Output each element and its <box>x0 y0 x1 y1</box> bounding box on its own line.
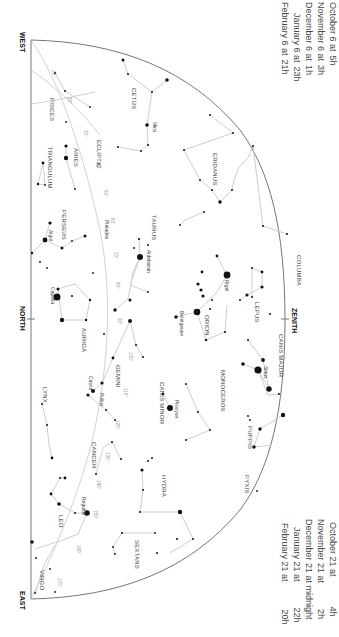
constellation-canis-major: CANIS MAJOR <box>278 334 284 378</box>
constellation-orion: ORION <box>204 315 210 336</box>
svg-text:February 6 at21h: February 6 at21h <box>280 2 290 75</box>
time-hour: 1h <box>304 65 314 75</box>
constellation-puppis: PUPPIS <box>247 426 253 449</box>
time-hour: 23h <box>292 67 302 82</box>
time-date: October 21 at <box>328 522 338 577</box>
degree-label: 120° <box>115 420 120 430</box>
constellation-pyxis: PYXIS <box>244 475 250 494</box>
constellation-sextans: SEXTANS <box>134 540 140 569</box>
time-date: December 21 at midnight <box>304 519 314 620</box>
time-date: November 21 at <box>316 519 326 584</box>
degree-label: 80° <box>115 282 120 289</box>
star-betelgeuse: Betelgeuse <box>179 311 185 336</box>
time-hour: 4h <box>328 607 338 617</box>
constellation-columba: COLUMBA <box>296 255 302 286</box>
star-castor: Castor <box>88 376 94 391</box>
viewing-times-late: October 21 at4h November 21 at2h Decembe… <box>280 519 338 625</box>
svg-text:December 21 at midnight: December 21 at midnight <box>304 519 314 620</box>
degree-label: 50° <box>103 190 108 197</box>
time-date: February 6 at <box>280 2 290 56</box>
zenith-label: ZENITH <box>291 308 298 333</box>
star-sirius: Sirius <box>263 366 269 379</box>
svg-text:November 21 at2h: November 21 at2h <box>316 519 326 619</box>
degree-label: 90° <box>117 318 122 325</box>
degree-label: 150° <box>93 510 98 520</box>
constellation-labels: PISCES CETUS ARIES TRIANGULUM PERSEUS ER… <box>39 88 302 590</box>
degree-label: 130° <box>105 452 110 462</box>
west-label: WEST <box>19 32 26 53</box>
time-hour: 2h <box>316 609 326 619</box>
constellation-lines <box>32 60 287 594</box>
constellation-taurus: TAURUS <box>151 215 157 240</box>
svg-text:February 21 at20h: February 21 at20h <box>280 523 290 625</box>
svg-text:January 6 at23h: January 6 at23h <box>292 13 302 82</box>
svg-text:December 6 at1h: December 6 at1h <box>304 2 314 75</box>
constellation-triangulum: TRIANGULUM <box>47 147 53 189</box>
constellation-cetus: CETUS <box>131 88 137 109</box>
time-hour: 20h <box>280 610 290 625</box>
time-date: October 6 at <box>328 2 338 52</box>
svg-text:November 6 at3h: November 6 at3h <box>316 2 326 75</box>
constellation-virgo: VIRGO <box>39 570 45 590</box>
star-algol: Algol <box>48 230 54 241</box>
svg-text:October 21 at4h: October 21 at4h <box>328 522 338 617</box>
viewing-times-early: October 6 at5h November 6 at3h December … <box>280 2 338 82</box>
star-rigel: Rigel <box>224 280 230 291</box>
constellation-cancer: CANCER <box>91 442 97 469</box>
time-hour: 5h <box>328 56 338 66</box>
svg-text:October 6 at5h: October 6 at5h <box>328 2 338 66</box>
constellation-leo: LEO <box>58 515 64 528</box>
constellation-lynx: LYNX <box>42 387 48 403</box>
degree-label: 30° <box>83 130 88 137</box>
time-date: November 6 at <box>316 2 326 62</box>
time-date: January 21 at <box>292 527 302 582</box>
degree-label: 110° <box>123 388 128 397</box>
north-label: NORTH <box>19 306 26 331</box>
star-aldebaran: Aldebaran <box>146 250 152 273</box>
constellation-eridanus: ERIDANUS <box>212 153 218 186</box>
star-chart: 10° 20° 30° 40° 50° 60° 70° 80° 90° 100°… <box>0 0 339 637</box>
time-hour: 21h <box>280 60 290 75</box>
degree-label: 140° <box>96 480 101 490</box>
degree-label: 170° <box>57 578 62 588</box>
star-mira: Mira <box>152 122 158 132</box>
star-labels: Mira Algol Pleiades Aldebaran Capella Ri… <box>48 122 269 516</box>
constellation-gemini: GEMINI <box>115 365 121 388</box>
star-capella: Capella <box>50 287 56 304</box>
time-date: February 21 at <box>280 523 290 582</box>
constellation-auriga: AURIGA <box>81 328 87 352</box>
degree-label: 160° <box>76 545 81 555</box>
constellation-monoceros: MONOCEROS <box>220 370 226 412</box>
constellation-lepus: LEPUS <box>254 302 260 323</box>
time-date: December 6 at <box>304 2 314 62</box>
east-label: EAST <box>19 591 26 610</box>
star-procyon: Procyon <box>174 400 180 419</box>
time-hour: 22h <box>292 608 302 623</box>
degree-label: 20° <box>67 97 72 104</box>
constellation-pisces: PISCES <box>49 98 55 121</box>
time-date: January 6 at <box>292 13 302 63</box>
constellation-canis-minor: CANIS MINOR <box>159 382 165 425</box>
ecliptic-label: ECLIPTIC <box>96 140 102 169</box>
constellation-aries: ARIES <box>73 148 79 167</box>
degree-label: 100° <box>128 352 133 362</box>
time-hour: 3h <box>316 65 326 75</box>
degree-label: 70° <box>113 252 118 259</box>
constellation-perseus: PERSEUS <box>61 210 67 240</box>
star-pleiades: Pleiades <box>104 220 110 240</box>
star-pollux: Pollux <box>99 393 105 407</box>
constellation-hydra: HYDRA <box>161 475 167 497</box>
star-regulus: Regulus <box>81 497 87 516</box>
svg-text:January 21 at22h: January 21 at22h <box>292 527 302 623</box>
